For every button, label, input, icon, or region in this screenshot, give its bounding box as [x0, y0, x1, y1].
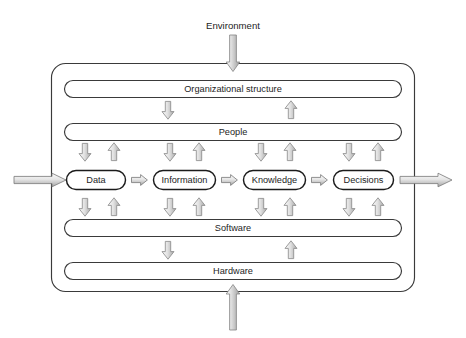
- arrow-up-icon: [284, 198, 296, 216]
- layer-label-software: Software: [215, 223, 251, 233]
- layer-label-people: People: [219, 127, 248, 137]
- flow-chain-software: [79, 198, 384, 216]
- arrow-right-icon: [312, 175, 328, 186]
- arrow-down-icon: [343, 198, 355, 216]
- layer-people[interactable]: People: [65, 124, 402, 141]
- flow-software-hardware: [162, 241, 297, 259]
- node-data[interactable]: Data: [67, 171, 126, 190]
- node-label-decisions: Decisions: [344, 175, 384, 185]
- node-knowledge[interactable]: Knowledge: [244, 171, 306, 190]
- arrow-down-icon: [79, 143, 91, 161]
- layer-organizational-structure[interactable]: Organizational structure: [65, 81, 402, 98]
- node-label-information: Information: [162, 175, 208, 185]
- layer-label-organizational-structure: Organizational structure: [184, 84, 282, 94]
- node-decisions[interactable]: Decisions: [334, 171, 394, 190]
- layer-software[interactable]: Software: [65, 220, 402, 237]
- arrow-up-icon: [285, 101, 297, 119]
- arrow-up-icon: [193, 198, 205, 216]
- arrow-right-icon: [222, 175, 238, 186]
- arrow-up-icon: [284, 143, 296, 161]
- layer-hardware[interactable]: Hardware: [65, 263, 402, 280]
- environment-input-arrow-left: [14, 173, 66, 187]
- arrow-up-icon: [372, 198, 384, 216]
- environment-output-arrow-right: [400, 173, 452, 187]
- arrow-down-icon: [164, 198, 176, 216]
- layer-label-hardware: Hardware: [213, 266, 253, 276]
- arrow-down-icon: [79, 198, 91, 216]
- node-information[interactable]: Information: [154, 171, 216, 190]
- arrow-down-icon: [162, 241, 174, 259]
- arrow-up-icon: [108, 198, 120, 216]
- bottom-input-arrow: [226, 285, 240, 331]
- arrow-down-icon: [162, 101, 174, 119]
- diagram-canvas: Environment Organizational structure Peo…: [0, 0, 466, 338]
- arrow-up-icon: [285, 241, 297, 259]
- arrow-up-icon: [372, 143, 384, 161]
- environment-label: Environment: [206, 20, 260, 31]
- flow-orgstructure-people: [162, 101, 297, 119]
- arrow-down-icon: [164, 143, 176, 161]
- arrow-up-icon: [193, 143, 205, 161]
- arrow-right-icon: [132, 175, 148, 186]
- arrow-down-icon: [343, 143, 355, 161]
- flow-people-chain: [79, 143, 384, 161]
- environment-input-arrow: [226, 35, 240, 72]
- node-label-knowledge: Knowledge: [252, 175, 297, 185]
- arrow-up-icon: [108, 143, 120, 161]
- node-label-data: Data: [86, 175, 106, 185]
- arrow-down-icon: [255, 198, 267, 216]
- arrow-down-icon: [255, 143, 267, 161]
